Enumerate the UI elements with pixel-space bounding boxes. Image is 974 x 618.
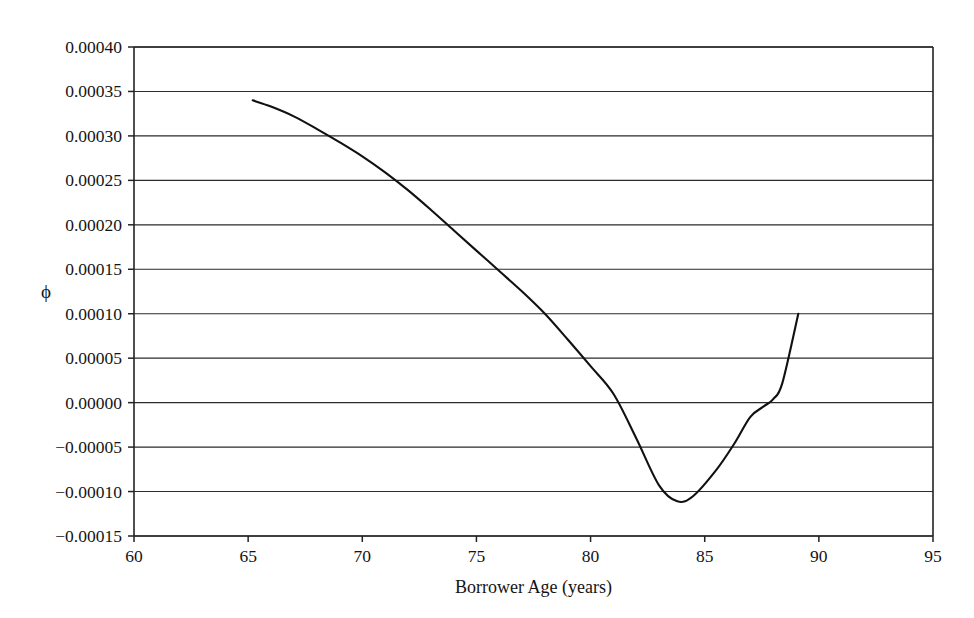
chart-background [0,0,974,618]
x-tick-label-1: 65 [239,546,257,566]
x-tick-label-4: 80 [582,546,600,566]
y-tick-label-5: 0.00015 [65,259,122,279]
x-tick-label-0: 60 [125,546,143,566]
x-axis-title: Borrower Age (years) [455,577,612,598]
chart-figure: 0.000400.000350.000300.000250.000200.000… [0,0,974,618]
y-tick-label-2: 0.00030 [65,126,122,146]
y-tick-label-1: 0.00035 [65,81,122,101]
y-tick-label-10: −0.00010 [55,482,122,502]
phi-vs-borrower-age-line-chart: 0.000400.000350.000300.000250.000200.000… [0,0,974,618]
y-axis-title: ϕ [41,281,51,302]
x-tick-label-3: 75 [468,546,486,566]
x-tick-label-2: 70 [354,546,372,566]
y-tick-label-9: −0.00005 [55,437,122,457]
y-tick-label-4: 0.00020 [65,215,122,235]
y-tick-label-11: −0.00015 [55,526,122,546]
y-tick-label-0: 0.00040 [65,37,122,57]
x-tick-label-5: 85 [696,546,714,566]
y-tick-label-7: 0.00005 [65,348,122,368]
y-tick-label-8: 0.00000 [65,393,122,413]
x-tick-label-7: 95 [924,546,942,566]
y-tick-label-3: 0.00025 [65,170,122,190]
x-tick-label-6: 90 [810,546,828,566]
y-tick-label-6: 0.00010 [65,304,122,324]
